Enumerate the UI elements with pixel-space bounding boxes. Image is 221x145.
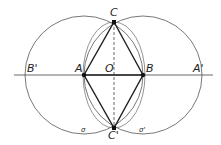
- label-Ap: A': [193, 63, 204, 74]
- label-A: A: [75, 63, 83, 74]
- geometry-diagram: C B' A O B A' C' σ σ': [0, 0, 221, 145]
- label-O: O: [105, 63, 114, 74]
- label-sigma-prime: σ': [139, 127, 145, 134]
- label-C: C: [110, 7, 118, 18]
- label-Bp: B': [27, 63, 38, 74]
- point-B: [141, 73, 145, 77]
- label-Cp: C': [108, 130, 119, 141]
- point-C: [112, 20, 116, 24]
- label-B: B: [146, 63, 154, 74]
- label-sigma: σ: [81, 127, 85, 134]
